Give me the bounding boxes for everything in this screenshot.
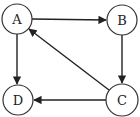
node-d-label: D bbox=[13, 93, 23, 108]
node-c-label: C bbox=[117, 93, 127, 108]
node-d: D bbox=[3, 85, 33, 115]
edge-a-to-b bbox=[32, 19, 106, 20]
node-a-label: A bbox=[11, 12, 22, 27]
node-b-label: B bbox=[117, 13, 127, 28]
directed-graph: A B C D bbox=[0, 0, 140, 117]
node-b: B bbox=[107, 5, 137, 35]
edge-c-to-a bbox=[29, 29, 109, 90]
node-a: A bbox=[2, 4, 32, 34]
node-c: C bbox=[106, 84, 138, 116]
